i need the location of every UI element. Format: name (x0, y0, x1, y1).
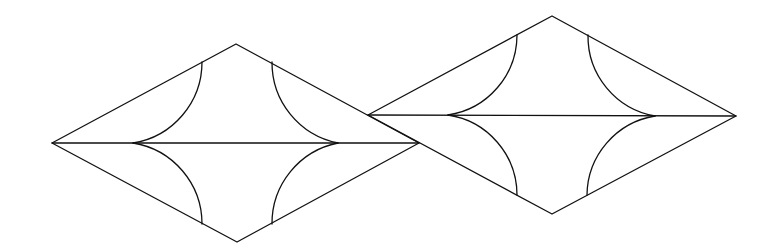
right-rhombus-arc-top-right (588, 35, 655, 116)
right-rhombus (368, 16, 736, 214)
left-rhombus-arc-bottom-left (133, 143, 202, 224)
right-rhombus-arc-top-left (448, 35, 517, 115)
right-rhombus-arc-bottom-right (587, 116, 655, 195)
right-rhombus-arc-bottom-left (448, 115, 517, 195)
left-rhombus-arc-top-right (272, 62, 338, 143)
left-rhombus-arc-top-left (133, 62, 202, 143)
diagram-canvas (0, 0, 761, 248)
right-rhombus-diagonal (368, 115, 736, 116)
left-rhombus-arc-bottom-right (272, 143, 338, 224)
left-rhombus (52, 44, 419, 242)
